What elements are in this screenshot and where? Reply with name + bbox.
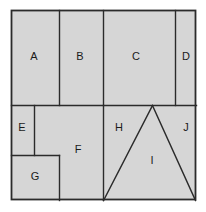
region-label-g: G xyxy=(31,170,40,182)
region-label-c: C xyxy=(132,50,140,62)
region-label-h: H xyxy=(115,121,123,133)
region-label-d: D xyxy=(182,50,190,62)
region-label-f: F xyxy=(75,143,82,155)
figure-canvas: ABCDEFGHIJ xyxy=(0,0,206,212)
region-label-i: I xyxy=(150,154,153,166)
region-label-e: E xyxy=(18,121,25,133)
dissection-figure: ABCDEFGHIJ xyxy=(0,0,206,212)
region-label-b: B xyxy=(76,50,83,62)
region-label-j: J xyxy=(183,121,189,133)
region-label-a: A xyxy=(30,50,38,62)
